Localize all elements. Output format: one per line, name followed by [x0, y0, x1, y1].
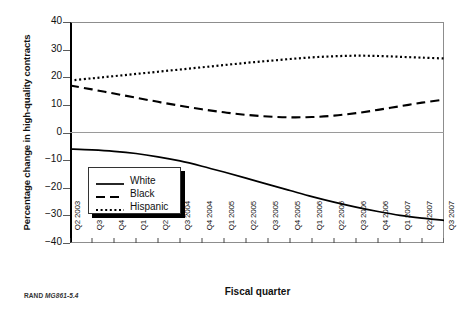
y-tick-mark — [63, 22, 70, 23]
y-tick-label: 10 — [28, 98, 62, 109]
legend-label: Black — [130, 188, 154, 199]
x-tick-label: Q2 2005 — [249, 201, 258, 247]
y-tick-mark — [63, 77, 70, 78]
legend-swatch-solid — [95, 175, 125, 185]
legend-swatch-dotted — [95, 201, 125, 211]
legend-swatch-dashed — [95, 188, 125, 198]
x-tick-label: Q3 2007 — [447, 201, 456, 247]
legend-item-black: Black — [95, 186, 154, 200]
series-line-black — [70, 86, 444, 118]
chart-figure: Percentage change in high-quality contra… — [0, 0, 469, 315]
legend-item-hispanic: Hispanic — [95, 199, 168, 213]
y-tick-mark — [63, 188, 70, 189]
y-tick-label: 20 — [28, 70, 62, 81]
x-tick-label: Q2 2007 — [425, 201, 434, 247]
credit-id: MG861-5.4 — [45, 292, 78, 299]
x-tick-label: Q4 2006 — [381, 201, 390, 247]
x-tick-label: Q2 2006 — [337, 201, 346, 247]
x-tick-label: Q1 2006 — [315, 201, 324, 247]
y-tick-label: −10 — [28, 153, 62, 164]
y-tick-label: 40 — [28, 15, 62, 26]
x-tick-label: Q2 2003 — [73, 201, 82, 247]
x-tick-label: Q1 2005 — [227, 201, 236, 247]
y-tick-mark — [63, 160, 70, 161]
x-tick-label: Q1 2007 — [403, 201, 412, 247]
x-tick-label: Q4 2004 — [205, 201, 214, 247]
y-tick-label: −40 — [28, 236, 62, 247]
y-tick-mark — [63, 105, 70, 106]
y-tick-label: −20 — [28, 181, 62, 192]
chart-legend: WhiteBlackHispanic — [88, 167, 181, 214]
x-axis-title: Fiscal quarter — [70, 286, 445, 297]
y-tick-label: 0 — [28, 126, 62, 137]
x-tick-label: Q3 2006 — [359, 201, 368, 247]
y-tick-mark — [63, 215, 70, 216]
legend-item-white: White — [95, 173, 156, 187]
x-tick-label: Q3 2005 — [271, 201, 280, 247]
series-line-hispanic — [70, 56, 444, 81]
y-tick-label: −30 — [28, 208, 62, 219]
y-tick-label: 30 — [28, 43, 62, 54]
x-tick-label: Q4 2005 — [293, 201, 302, 247]
legend-label: White — [130, 175, 156, 186]
y-tick-mark — [63, 243, 70, 244]
y-tick-mark — [63, 133, 70, 134]
y-tick-mark — [63, 50, 70, 51]
legend-label: Hispanic — [130, 201, 168, 212]
figure-credit: RAND MG861-5.4 — [24, 292, 79, 299]
credit-prefix: RAND — [24, 292, 43, 299]
